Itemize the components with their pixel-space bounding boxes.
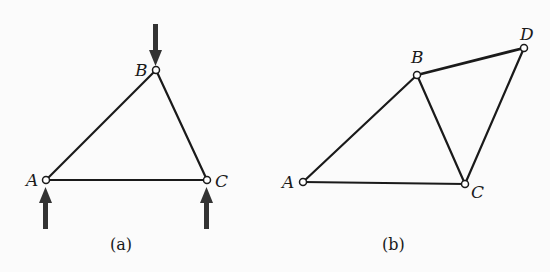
joint-label-b-B: B xyxy=(410,47,424,67)
member-a-AB xyxy=(46,70,156,180)
caption-b: (b) xyxy=(382,235,405,254)
joint-a-C xyxy=(204,177,211,184)
joint-b-A xyxy=(300,179,307,186)
member-b-BD xyxy=(417,48,524,75)
reaction-arrow-up-icon xyxy=(200,187,213,229)
member-b-BC xyxy=(417,75,465,184)
reaction-arrow-up-icon xyxy=(39,187,52,229)
joint-label-a-A: A xyxy=(24,170,38,190)
member-b-CD xyxy=(465,48,524,184)
joint-label-b-A: A xyxy=(280,172,294,192)
figure-a: A B C (a) xyxy=(24,24,228,254)
joint-a-B xyxy=(153,67,160,74)
joint-b-C xyxy=(462,181,469,188)
truss-diagrams: A B C (a) A B C D (b) xyxy=(0,0,550,272)
joint-a-A xyxy=(43,177,50,184)
joint-label-a-B: B xyxy=(134,60,148,80)
truss-figure: A B C (a) A B C D (b) xyxy=(0,0,550,272)
joint-label-b-C: C xyxy=(471,182,484,202)
member-b-AC xyxy=(303,182,465,184)
figure-b: A B C D (b) xyxy=(280,24,534,254)
joint-b-D xyxy=(521,45,528,52)
member-a-BC xyxy=(156,70,207,180)
member-b-AB xyxy=(303,75,417,182)
joint-label-b-D: D xyxy=(519,24,534,44)
joint-label-a-C: C xyxy=(215,171,228,191)
load-arrow-down-icon xyxy=(149,24,162,66)
joint-b-B xyxy=(414,72,421,79)
caption-a: (a) xyxy=(110,235,132,254)
